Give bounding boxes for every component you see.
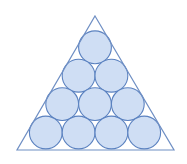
circles-in-triangle-diagram	[0, 0, 187, 164]
packed-circle-r4-c3	[95, 116, 128, 149]
packed-circle-r4-c2	[62, 116, 95, 149]
packed-circle-r4-c4	[128, 116, 161, 149]
figure-canvas	[0, 0, 187, 164]
packed-circle-r3-c3	[111, 88, 144, 121]
packed-circle-r3-c2	[79, 88, 112, 121]
